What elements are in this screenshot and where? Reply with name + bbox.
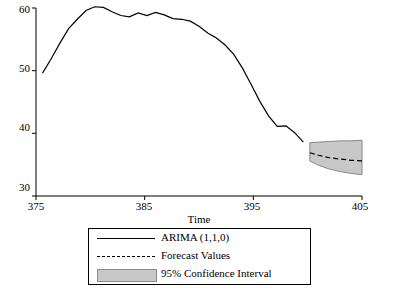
legend-label-forecast: Forecast Values [161, 249, 230, 261]
legend-label-arima: ARIMA (1,1,0) [161, 231, 229, 243]
confidence-band [310, 140, 362, 174]
y-tick-label-40: 40 [4, 121, 30, 133]
arima-series-line [43, 7, 304, 142]
y-tick-label-30: 30 [4, 181, 30, 193]
y-tick-label-50: 50 [4, 62, 30, 74]
legend-item-arima: ARIMA (1,1,0) [89, 230, 310, 247]
legend-sample-gray-band [97, 266, 155, 283]
x-axis-ticks [36, 196, 362, 200]
legend-item-forecast: Forecast Values [89, 248, 310, 265]
legend-label-confidence-interval: 95% Confidence Interval [161, 267, 272, 279]
x-axis-title: Time [159, 213, 239, 225]
chart-figure: 60 50 40 30 375 385 395 405 Time ARIMA (… [0, 0, 400, 291]
x-tick-label-385: 385 [124, 200, 164, 212]
plot-area [36, 8, 362, 196]
legend-sample-solid-line [97, 230, 155, 247]
x-tick-label-405: 405 [340, 200, 380, 212]
legend-item-confidence-interval: 95% Confidence Interval [89, 266, 310, 283]
y-tick-label-60: 60 [4, 3, 30, 15]
x-tick-label-395: 395 [232, 200, 272, 212]
chart-svg [36, 8, 362, 196]
x-tick-label-375: 375 [16, 200, 56, 212]
y-axis-ticks [32, 8, 36, 196]
legend: ARIMA (1,1,0) Forecast Values 95% Confid… [88, 228, 311, 285]
legend-sample-dashed-line [97, 248, 155, 265]
